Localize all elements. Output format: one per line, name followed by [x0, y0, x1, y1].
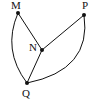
graph-diagram: M N P Q: [0, 0, 92, 99]
edge-n-p: [42, 15, 84, 50]
label-n: N: [29, 41, 37, 53]
node-p: [82, 13, 86, 17]
node-n: [40, 48, 44, 52]
label-p: P: [82, 0, 88, 11]
label-m: M: [11, 0, 21, 11]
label-q: Q: [22, 87, 30, 99]
node-q: [25, 81, 29, 85]
edge-n-q: [27, 50, 42, 83]
node-m: [16, 11, 20, 15]
